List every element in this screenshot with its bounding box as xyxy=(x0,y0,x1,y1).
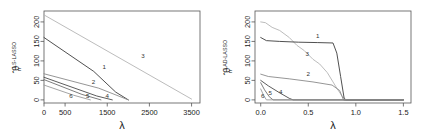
x-tick-label: 500 xyxy=(59,108,71,117)
series-label-2: 2 xyxy=(92,78,96,85)
series-label-4: 4 xyxy=(106,92,110,99)
panel-lad-lasso: θ̂nLAD-LASSO 0.00.51.01.5050100150200312… xyxy=(211,0,421,138)
series-label-2: 2 xyxy=(307,70,311,77)
plot-area-right: 0.00.51.01.5050100150200312456 xyxy=(211,0,421,138)
series-label-3: 3 xyxy=(141,52,145,59)
x-tick-label: 1.5 xyxy=(398,108,408,117)
y-tick-label: 150 xyxy=(33,35,42,47)
y-tick-label: 200 xyxy=(244,16,253,28)
series-line-3 xyxy=(44,15,192,99)
plot-area-left: 0500150025003500050100150200312456 xyxy=(0,0,210,138)
y-tick-label: 0 xyxy=(244,98,253,102)
y-tick-label: 150 xyxy=(244,35,253,47)
x-tick-label: 0.0 xyxy=(256,108,266,117)
series-label-1: 1 xyxy=(316,32,320,39)
x-tick-label: 0.5 xyxy=(303,108,313,117)
y-tick-label: 200 xyxy=(33,16,42,28)
y-tick-label: 50 xyxy=(244,76,253,84)
x-axis-label-right: λ xyxy=(255,119,411,131)
x-tick-label: 3500 xyxy=(183,108,199,117)
y-tick-label: 100 xyxy=(33,55,42,67)
series-label-4: 4 xyxy=(279,88,283,95)
x-tick-label: 2500 xyxy=(141,108,157,117)
series-label-6: 6 xyxy=(69,92,73,99)
x-axis-label-left: λ xyxy=(44,119,200,131)
x-tick-label: 0 xyxy=(42,108,46,117)
series-line-1 xyxy=(44,38,128,100)
figure-root: θ̂nLS-LASSO 0500150025003500050100150200… xyxy=(0,0,421,138)
series-label-5: 5 xyxy=(268,89,272,96)
x-tick-label: 1500 xyxy=(99,108,115,117)
x-tick-label: 1.0 xyxy=(351,108,361,117)
series-label-3: 3 xyxy=(306,50,310,57)
series-label-6: 6 xyxy=(261,92,265,99)
series-line-6 xyxy=(44,85,90,100)
series-label-5: 5 xyxy=(86,92,90,99)
series-label-1: 1 xyxy=(103,63,107,70)
y-tick-label: 100 xyxy=(244,55,253,67)
y-tick-label: 0 xyxy=(33,98,42,102)
y-tick-label: 50 xyxy=(33,76,42,84)
panel-ls-lasso: θ̂nLS-LASSO 0500150025003500050100150200… xyxy=(0,0,210,138)
